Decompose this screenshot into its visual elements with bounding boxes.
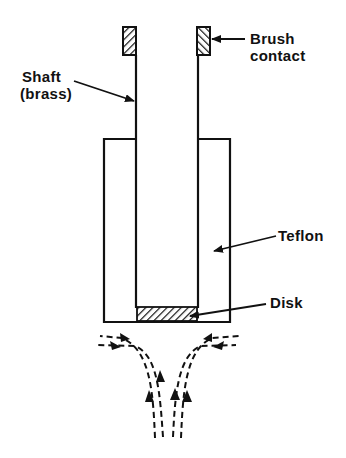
shaft-leader <box>74 81 134 101</box>
teflon-sleeve <box>104 139 230 322</box>
flow-arrowheads <box>110 333 224 402</box>
label-brush: Brush <box>250 30 295 47</box>
label-teflon: Teflon <box>278 227 324 244</box>
teflon-leader <box>214 236 276 251</box>
brush-contact-right <box>197 27 210 55</box>
flow-streamlines <box>98 336 240 438</box>
label-brass: (brass) <box>20 85 72 102</box>
label-contact: contact <box>250 47 305 64</box>
label-disk: Disk <box>270 294 303 311</box>
disk-electrode <box>137 307 197 321</box>
disk-leader <box>190 304 266 316</box>
brush-contact-left <box>123 27 136 55</box>
brass-shaft <box>136 55 198 308</box>
rotating-disk-electrode-diagram: Brush contact Shaft (brass) Teflon Disk <box>0 0 346 458</box>
label-shaft: Shaft <box>22 68 61 85</box>
